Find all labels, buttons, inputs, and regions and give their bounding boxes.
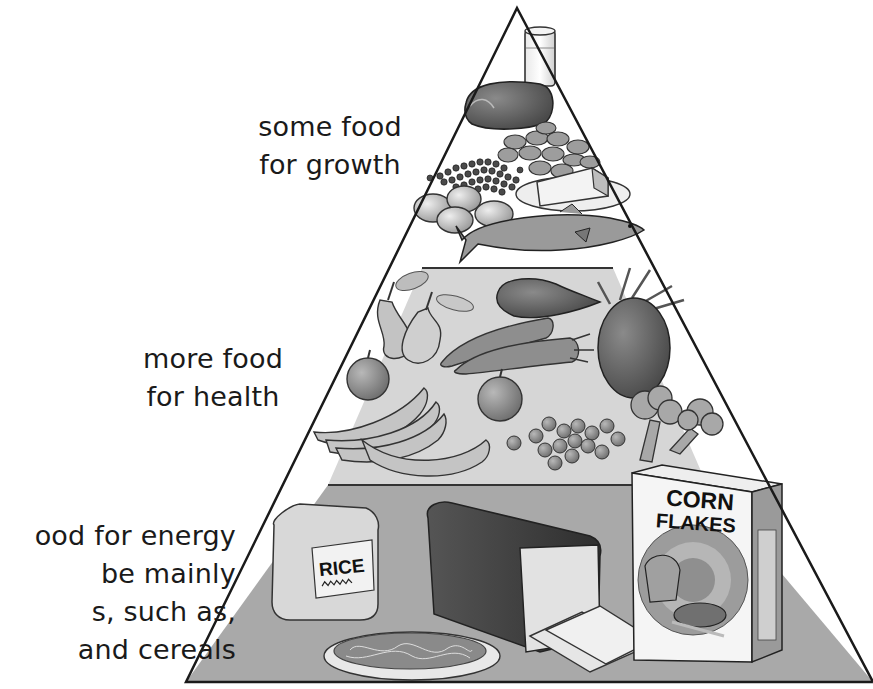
glass-of-milk-icon xyxy=(525,27,555,86)
label-line: for growth xyxy=(230,146,430,184)
label-line: some food xyxy=(230,108,430,146)
label-line: and cereals xyxy=(0,631,236,669)
label-line: more food xyxy=(118,340,308,378)
label-line: ood for energy xyxy=(0,517,236,555)
label-line: be mainly xyxy=(0,555,236,593)
corn-flakes-box-icon: CORN FLAKES xyxy=(632,465,782,662)
tier-label-health: more food for health xyxy=(118,340,308,416)
spaghetti-icon xyxy=(324,632,500,680)
label-line: for health xyxy=(118,378,308,416)
tier-label-energy: ood for energy be mainly s, such as, and… xyxy=(0,517,236,669)
tier-label-growth: some food for growth xyxy=(230,108,430,184)
food-pyramid-diagram: RICE CORN FLAKES xyxy=(0,0,873,689)
rice-bag-icon: RICE xyxy=(272,504,379,620)
label-line: s, such as, xyxy=(0,593,236,631)
